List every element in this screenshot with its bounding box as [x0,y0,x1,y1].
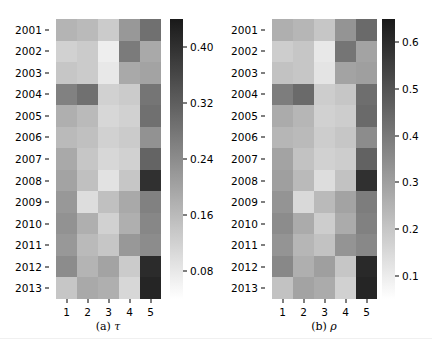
heatmap-cell [56,19,77,41]
y-axis-tick-label: 2003 [15,67,42,79]
x-axis-tick-label: 1 [63,306,70,318]
heatmap-cell [98,256,119,278]
x-axis-tick-label: 5 [363,306,370,318]
panel-a-caption-prefix: (a) [96,320,111,333]
colorbar-tick-mark [395,89,399,90]
panel-a-caption-symbol: τ [114,320,120,333]
y-axis-tick-mark [261,202,265,203]
heatmap-cell [335,19,356,41]
colorbar-tick-mark [183,47,187,48]
heatmap-cell [314,213,335,235]
panel-b-x-axis: 12345 [272,299,377,321]
heatmap-cell [140,84,161,106]
y-axis-tick-label: 2005 [15,110,42,122]
colorbar-tick-label: 0.2 [402,223,419,235]
y-axis-tick-label: 2001 [15,24,42,36]
heatmap-cell [119,41,140,63]
panel-b-colorbar: 0.10.20.30.40.50.6 [382,19,432,299]
panel-b-caption-symbol: ρ [330,320,336,333]
y-axis-tick-label: 2001 [231,24,258,36]
colorbar-tick-label: 0.40 [190,41,213,53]
panel-b-caption-prefix: (b) [311,320,327,333]
y-axis-tick-label: 2013 [231,282,258,294]
heatmap-cell [77,105,98,127]
heatmap-cell [293,170,314,192]
heatmap-cell [356,148,377,170]
heatmap-cell [56,127,77,149]
x-axis-tick-label: 5 [147,306,154,318]
heatmap-cell [314,148,335,170]
heatmap-cell [293,191,314,213]
y-axis-tick-mark [45,94,49,95]
heatmap-cell [56,191,77,213]
panel-a-y-axis: 2001200220032004200520062007200820092010… [0,19,50,299]
y-axis-tick-mark [45,29,49,30]
x-axis-tick-label: 3 [105,306,112,318]
heatmap-cell [293,19,314,41]
y-axis-tick-mark [45,72,49,73]
colorbar-tick-mark [395,42,399,43]
heatmap-cell [77,277,98,299]
heatmap-cell [293,127,314,149]
heatmap-cell [356,105,377,127]
heatmap-cell [119,170,140,192]
heatmap-cell [119,127,140,149]
x-axis-tick-label: 4 [126,306,133,318]
heatmap-cell [140,256,161,278]
heatmap-cell [356,19,377,41]
panel-a-heatmap [56,19,161,299]
x-axis-tick-mark [129,299,130,303]
panel-b-caption: (b) ρ [216,320,432,333]
colorbar-tick-label: 0.08 [190,265,213,277]
heatmap-cell [77,256,98,278]
colorbar-tick-mark [183,215,187,216]
y-axis-tick-label: 2002 [15,45,42,57]
y-axis-tick-label: 2006 [231,131,258,143]
heatmap-cell [77,84,98,106]
heatmap-cell [314,127,335,149]
y-axis-tick-mark [45,159,49,160]
heatmap-cell [314,41,335,63]
heatmap-cell [56,105,77,127]
heatmap-cell [314,277,335,299]
x-axis-tick-mark [324,299,325,303]
x-axis-tick-mark [66,299,67,303]
panel-b-heatmap-grid [272,19,377,299]
heatmap-cell [272,19,293,41]
heatmap-cell [272,127,293,149]
heatmap-cell [56,62,77,84]
y-axis-tick-label: 2003 [231,67,258,79]
heatmap-cell [119,148,140,170]
heatmap-cell [119,19,140,41]
heatmap-cell [314,105,335,127]
heatmap-cell [356,62,377,84]
heatmap-cell [140,213,161,235]
y-axis-tick-mark [45,245,49,246]
x-axis-tick-label: 1 [279,306,286,318]
heatmap-cell [98,105,119,127]
x-axis-tick-mark [282,299,283,303]
heatmap-cell [98,148,119,170]
heatmap-cell [77,19,98,41]
heatmap-cell [272,213,293,235]
y-axis-tick-mark [261,180,265,181]
y-axis-tick-mark [45,266,49,267]
heatmap-cell [293,277,314,299]
heatmap-cell [77,62,98,84]
heatmap-cell [356,213,377,235]
y-axis-tick-label: 2002 [231,45,258,57]
heatmap-cell [293,234,314,256]
heatmap-cell [272,105,293,127]
y-axis-tick-mark [261,29,265,30]
heatmap-cell [98,277,119,299]
heatmap-cell [272,41,293,63]
heatmap-cell [140,170,161,192]
colorbar-tick-mark [183,103,187,104]
heatmap-cell [314,19,335,41]
heatmap-cell [140,105,161,127]
heatmap-cell [56,41,77,63]
x-axis-tick-mark [303,299,304,303]
heatmap-cell [119,191,140,213]
heatmap-cell [356,127,377,149]
y-axis-tick-mark [45,137,49,138]
